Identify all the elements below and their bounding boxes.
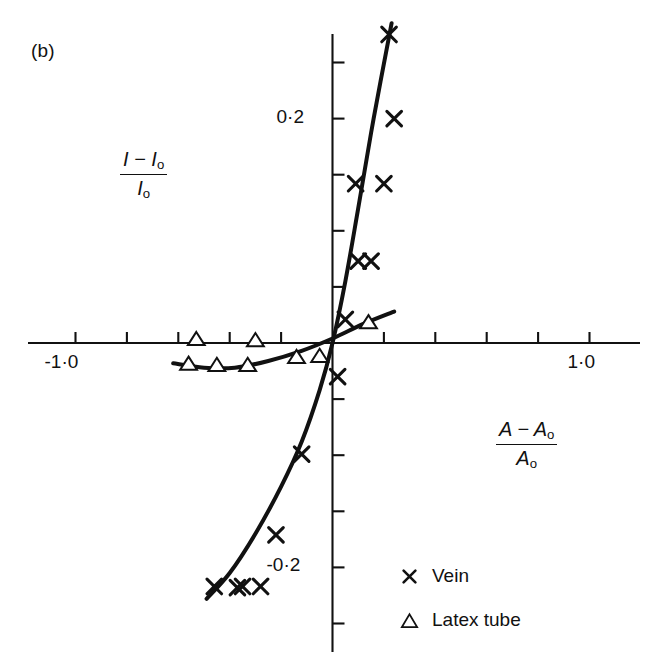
data-point-vein (253, 579, 268, 594)
panel-label: (b) (31, 40, 55, 62)
data-point-vein (338, 312, 353, 327)
legend-label-vein: Vein (432, 565, 469, 587)
data-point-latex-tube (188, 332, 205, 345)
x-axis-title-denominator: Ao (496, 444, 557, 472)
y-axis-title-numerator: I − Io (120, 148, 167, 174)
data-point-latex-tube (360, 315, 377, 328)
cross-marker-icon (396, 568, 422, 585)
data-point-vein (387, 111, 402, 126)
y-axis-title: I − Io Io (120, 148, 167, 201)
data-point-latex-tube (311, 349, 328, 362)
legend-item-latex-tube: Latex tube (396, 607, 521, 633)
data-point-vein (364, 254, 379, 269)
scatter-plot (0, 0, 667, 667)
data-point-vein (269, 528, 284, 543)
figure-canvas: (b) -1·0 1·0 0·2 -0·2 I − Io Io A − Ao A… (0, 0, 667, 667)
x-axis-title-numerator: A − Ao (496, 418, 557, 444)
fitted-curve-latex-tube (173, 312, 394, 369)
legend-label-latex-tube: Latex tube (432, 609, 521, 631)
data-point-latex-tube (208, 358, 225, 371)
x-tick-label-plus-1: 1·0 (568, 351, 595, 373)
triangle-marker-icon (396, 612, 422, 629)
y-axis-title-denominator: Io (120, 174, 167, 202)
legend-item-vein: Vein (396, 563, 521, 589)
legend: Vein Latex tube (396, 563, 521, 651)
x-tick-label-minus-1: -1·0 (45, 351, 79, 373)
x-axis-title: A − Ao Ao (496, 418, 557, 471)
y-tick-label-minus-0-2: -0·2 (267, 554, 301, 576)
data-point-vein (377, 176, 392, 191)
y-tick-label-plus-0-2: 0·2 (277, 106, 304, 128)
data-point-vein (351, 254, 366, 269)
data-point-latex-tube (247, 333, 264, 346)
